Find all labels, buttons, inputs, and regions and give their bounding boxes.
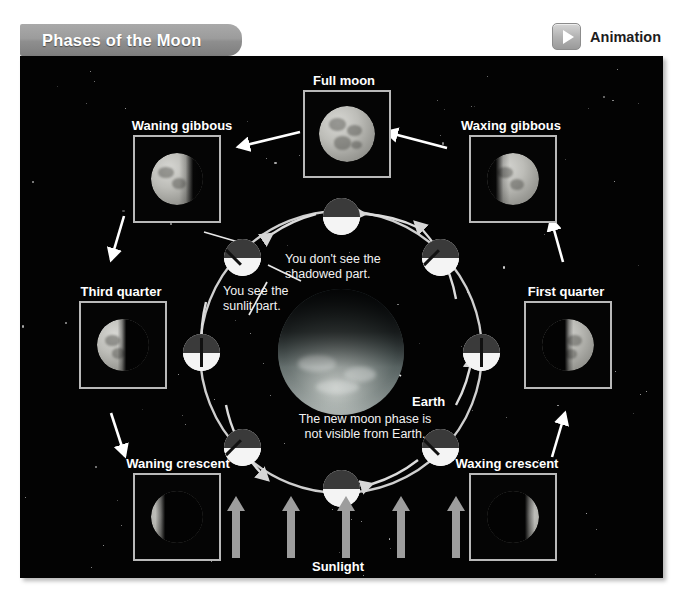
sunlight-arrow [337, 496, 355, 558]
phase-label-waxing-crescent: Waxing crescent [441, 456, 573, 471]
callout-new-moon-note: The new moon phase is not visible from E… [270, 412, 460, 442]
earth-label: Earth [412, 394, 445, 409]
orbit-moon-top-left [224, 239, 261, 276]
sunlight-label: Sunlight [312, 559, 364, 574]
phase-frame-waxing-gibbous[interactable] [469, 135, 557, 223]
phase-frame-full-moon[interactable] [303, 90, 391, 178]
sunlight-arrow [447, 496, 465, 558]
orbit-moon-top-right [422, 239, 459, 276]
page-title: Phases of the Moon [42, 31, 201, 50]
play-icon[interactable] [552, 23, 581, 50]
animation-button[interactable]: Animation [552, 23, 661, 50]
phase-label-third-quarter: Third quarter [62, 284, 180, 299]
phase-frame-waning-gibbous[interactable] [133, 135, 221, 223]
phase-label-first-quarter: First quarter [507, 284, 625, 299]
callout-sunlit-part: You see the sunlit part. [223, 284, 333, 314]
phase-label-full-moon: Full moon [302, 73, 386, 88]
callout-shadowed-part: You don't see the shadowed part. [285, 252, 425, 282]
phase-frame-waxing-crescent[interactable] [469, 473, 557, 561]
sunlight-arrow [227, 496, 245, 558]
animation-label: Animation [590, 29, 661, 45]
orbit-moon-top [323, 198, 360, 235]
phase-label-waxing-gibbous: Waxing gibbous [449, 118, 573, 133]
phase-frame-first-quarter[interactable] [524, 301, 612, 389]
phase-label-waning-gibbous: Waning gibbous [120, 118, 244, 133]
orbit-moon-left [183, 334, 220, 371]
phase-label-waning-crescent: Waning crescent [112, 456, 244, 471]
sunlight-arrow [392, 496, 410, 558]
panel-title-tab: Phases of the Moon [20, 24, 242, 56]
moon-phases-diagram: Earth Moon's orbit You don't see the sha… [20, 56, 663, 578]
phase-frame-third-quarter[interactable] [79, 301, 167, 389]
sunlight-arrow [282, 496, 300, 558]
phase-frame-waning-crescent[interactable] [133, 473, 221, 561]
orbit-moon-right [463, 334, 500, 371]
